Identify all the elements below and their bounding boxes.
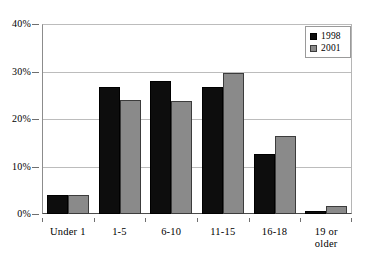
y-tick-mark: [32, 119, 39, 120]
x-tick-mark: [197, 218, 198, 222]
y-tick-label: 40%: [0, 19, 31, 29]
y-tick-mark: [32, 72, 39, 73]
bar-2001: [223, 73, 244, 214]
y-axis: 0%10%20%30%40%: [0, 0, 42, 264]
bar-group: [99, 24, 141, 214]
bar-group: [150, 24, 192, 214]
y-tick-mark: [32, 24, 39, 25]
y-tick-label: 20%: [0, 114, 31, 124]
y-tick-mark: [32, 214, 39, 215]
bar-1998: [202, 87, 223, 214]
bar-2001: [171, 101, 192, 214]
x-tick-label: 16-18: [249, 226, 301, 238]
legend-label: 2001: [321, 43, 341, 53]
x-tick-label: 6-10: [145, 226, 197, 238]
legend-swatch-icon: [310, 33, 317, 40]
y-tick-mark: [32, 167, 39, 168]
x-tick-mark: [300, 218, 301, 222]
chart-legend: 19982001: [305, 26, 351, 58]
y-tick-label: 0%: [0, 209, 31, 219]
x-tick-mark: [42, 218, 43, 222]
bar-1998: [99, 87, 120, 214]
bar-1998: [254, 154, 275, 214]
bar-group: [47, 24, 89, 214]
bar-2001: [326, 206, 347, 214]
x-tick-mark: [249, 218, 250, 222]
x-tick-mark: [94, 218, 95, 222]
bar-1998: [150, 81, 171, 214]
bar-2001: [275, 136, 296, 214]
x-tick-label: 11-15: [197, 226, 249, 238]
legend-item: 1998: [310, 30, 347, 42]
legend-label: 1998: [321, 31, 341, 41]
x-axis: Under 11-56-1011-1516-1819 or older: [42, 218, 352, 264]
bar-chart: 0%10%20%30%40% Under 11-56-1011-1516-181…: [0, 0, 376, 264]
bar-group: [254, 24, 296, 214]
bar-2001: [120, 100, 141, 214]
x-tick-label: 1-5: [94, 226, 146, 238]
bar-1998: [47, 195, 68, 214]
bar-group: [202, 24, 244, 214]
x-tick-label: 19 or older: [300, 226, 352, 250]
legend-swatch-icon: [310, 45, 317, 52]
legend-item: 2001: [310, 42, 347, 54]
x-tick-label: Under 1: [42, 226, 94, 238]
x-tick-mark: [145, 218, 146, 222]
x-tick-mark: [351, 218, 352, 222]
bar-2001: [68, 195, 89, 214]
y-tick-label: 30%: [0, 67, 31, 77]
y-tick-label: 10%: [0, 162, 31, 172]
bar-1998: [305, 211, 326, 214]
